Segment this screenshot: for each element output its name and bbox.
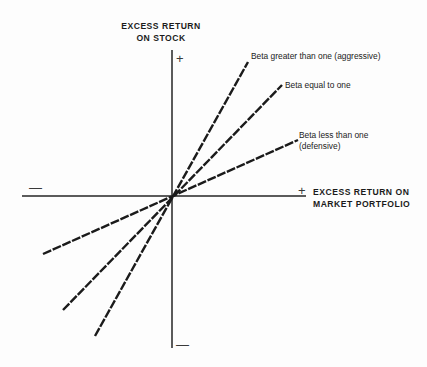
annotation-beta-aggressive: Beta greater than one (aggressive) — [251, 51, 426, 62]
chart-figure: + — + — EXCESS RETURN ON STOCK EXCESS RE… — [0, 0, 427, 367]
x-axis-positive-sign: + — [298, 184, 306, 197]
x-axis-title: EXCESS RETURN ON MARKET PORTFOLIO — [313, 186, 425, 210]
y-axis-title: EXCESS RETURN ON STOCK — [101, 20, 221, 44]
x-axis-negative-sign: — — [29, 181, 42, 194]
annotation-beta-defensive: Beta less than one (defensive) — [299, 130, 419, 151]
y-axis-negative-sign: — — [176, 338, 189, 351]
annotation-beta-equal: Beta equal to one — [285, 80, 415, 91]
y-axis-positive-sign: + — [176, 52, 184, 65]
x-axis-line — [22, 195, 306, 197]
y-axis-line — [171, 50, 173, 348]
